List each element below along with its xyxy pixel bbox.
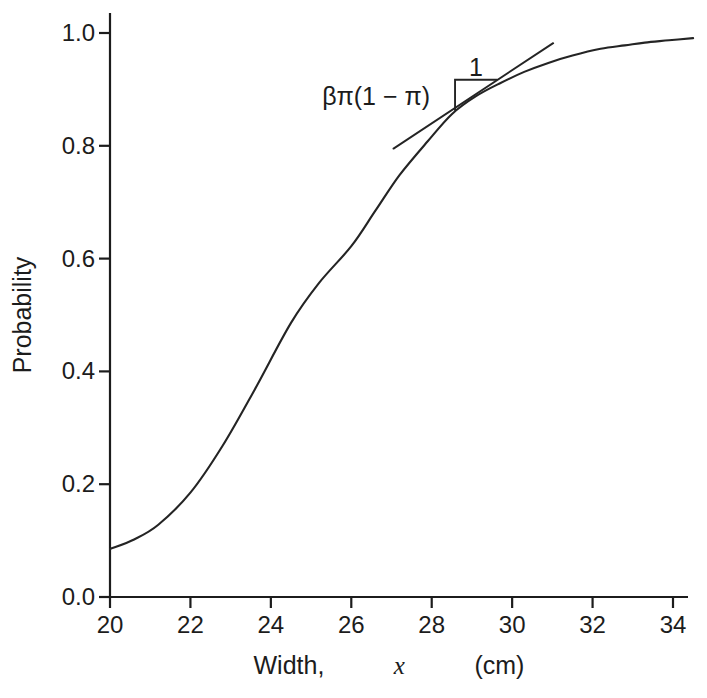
x-axis-title-prefix: Width, (254, 651, 332, 679)
slope-annotation: βπ(1 − π) (322, 82, 430, 110)
x-axis-ticks (110, 597, 673, 608)
y-tick-label: 0.2 (62, 470, 95, 497)
run-annotation: 1 (469, 53, 483, 81)
x-tick-label: 24 (258, 611, 285, 638)
chart-svg: 0.00.20.40.60.81.0 2022242628303234 Prob… (0, 0, 707, 698)
x-axis-title: Width, x (cm) (191, 651, 573, 679)
y-axis-title: Probability (8, 256, 36, 373)
logistic-curve-figure: 0.00.20.40.60.81.0 2022242628303234 Prob… (0, 0, 707, 698)
x-tick-label: 26 (338, 611, 365, 638)
x-tick-label: 32 (579, 611, 606, 638)
x-axis-title-suffix: (cm) (467, 651, 524, 679)
x-tick-label: 34 (660, 611, 687, 638)
y-tick-label: 0.4 (62, 357, 95, 384)
x-tick-label: 22 (177, 611, 204, 638)
y-tick-label: 0.0 (62, 583, 95, 610)
x-axis-title-variable: x (393, 652, 405, 679)
y-tick-label: 1.0 (62, 19, 95, 46)
y-tick-label: 0.8 (62, 132, 95, 159)
x-axis-tick-labels: 2022242628303234 (97, 611, 687, 638)
y-tick-label: 0.6 (62, 245, 95, 272)
probability-curve (110, 38, 693, 549)
x-tick-label: 20 (97, 611, 124, 638)
y-axis-tick-labels: 0.00.20.40.60.81.0 (62, 19, 95, 610)
data-layer (110, 38, 693, 549)
y-axis-ticks (99, 33, 110, 597)
x-tick-label: 28 (418, 611, 445, 638)
x-tick-label: 30 (499, 611, 526, 638)
